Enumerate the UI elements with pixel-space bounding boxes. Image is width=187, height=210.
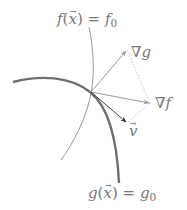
grad-g-arrow — [91, 51, 126, 92]
f-level-curve — [61, 27, 93, 160]
v-vector-symbol: v — [129, 124, 137, 139]
grad-f-label: ∇f — [155, 96, 171, 111]
nabla-icon: ∇ — [131, 43, 141, 61]
g0-symbol: g — [140, 184, 150, 202]
subscript: 0 — [110, 17, 117, 29]
g-level-curve — [13, 78, 119, 183]
x-vector-symbol: x — [68, 12, 76, 27]
subscript: 0 — [150, 191, 157, 203]
g-func-symbol: g — [88, 184, 98, 202]
paren: ) — [112, 184, 118, 202]
f-curve-label: f(x) = f0 — [57, 12, 117, 28]
x-vector-symbol: x — [103, 186, 111, 201]
nabla-icon: ∇ — [155, 94, 165, 112]
equals-sign: = — [123, 184, 136, 202]
g-symbol: g — [141, 43, 151, 61]
v-label: v — [129, 124, 137, 139]
paren: ) — [77, 10, 83, 28]
f-symbol: f — [165, 94, 171, 112]
equals-sign: = — [88, 10, 101, 28]
g-curve-label: g(x) = g0 — [88, 186, 156, 202]
grad-g-label: ∇g — [131, 45, 151, 60]
